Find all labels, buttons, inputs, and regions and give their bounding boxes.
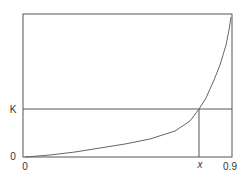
y-tick-k: K [10, 104, 17, 115]
x-tick-max: 0.9 [223, 161, 237, 172]
x-tick-zero: 0 [22, 161, 28, 172]
x-tick-x: x [197, 159, 204, 170]
y-tick-zero: 0 [10, 151, 16, 162]
chart: 0 K 0 x 0.9 [0, 0, 252, 180]
curve-line [25, 17, 231, 157]
plot-frame [23, 14, 232, 157]
